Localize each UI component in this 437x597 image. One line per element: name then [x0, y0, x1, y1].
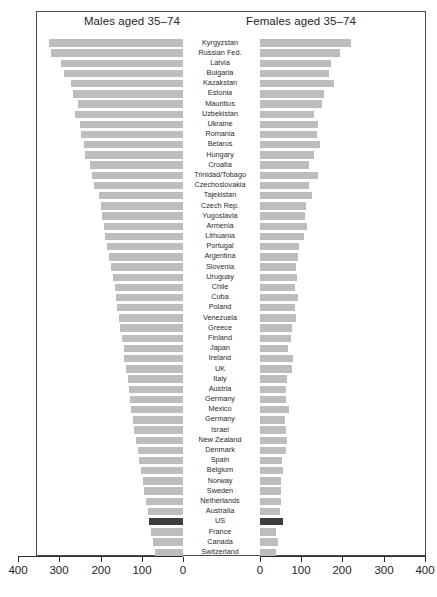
bar-female: [260, 202, 306, 209]
country-label: UK: [183, 364, 257, 374]
bar-female: [260, 172, 318, 179]
country-label: Denmark: [183, 445, 257, 455]
chart-row: Germany: [0, 395, 437, 405]
chart-row: Mexico: [0, 405, 437, 415]
bar-female: [260, 386, 286, 393]
chart-row: Canada: [0, 537, 437, 547]
bar-male: [113, 274, 183, 281]
bar-female: [260, 396, 286, 403]
bar-male: [130, 396, 183, 403]
country-label: Sweden: [183, 486, 257, 496]
chart-row: Kazakstan: [0, 79, 437, 89]
axis-tick-right: [342, 557, 343, 562]
axis-tick-label-left: 200: [81, 564, 121, 576]
bar-female: [260, 528, 276, 535]
bar-male: [78, 100, 183, 107]
country-label: Bulgaria: [183, 68, 257, 78]
country-label: Mexico: [183, 404, 257, 414]
bar-male: [124, 345, 183, 352]
bar-female: [260, 212, 305, 219]
chart-row: Trinidad/Tobago: [0, 170, 437, 180]
country-label: Japan: [183, 343, 257, 353]
chart-row: Romania: [0, 130, 437, 140]
chart-row: Chile: [0, 283, 437, 293]
bar-female: [260, 314, 296, 321]
axis-tick-right: [260, 557, 261, 562]
country-label: Australia: [183, 506, 257, 516]
bar-male: [75, 111, 183, 118]
bar-male: [90, 161, 183, 168]
country-label: Russian Fed.: [183, 48, 257, 58]
axis-tick-left: [101, 557, 102, 562]
chart-row: Netherlands: [0, 496, 437, 506]
country-label: Argentina: [183, 251, 257, 261]
country-label: Uzbekistan: [183, 109, 257, 119]
axis-tick-label-right: 200: [322, 564, 362, 576]
chart-row: Argentina: [0, 252, 437, 262]
bar-male: [122, 335, 183, 342]
bar-male: [128, 375, 183, 382]
bar-female: [260, 294, 298, 301]
bar-male: [71, 80, 183, 87]
bar-female: [260, 426, 286, 433]
country-label: Estonia: [183, 88, 257, 98]
country-label: New Zealand: [183, 435, 257, 445]
bar-male: [115, 284, 183, 291]
bar-male: [94, 182, 183, 189]
chart-row: Belgium: [0, 466, 437, 476]
bar-female: [260, 304, 295, 311]
chart-row: Finland: [0, 333, 437, 343]
panel-title-males: Males aged 35–74: [62, 15, 202, 27]
chart-row: Yugoslavia: [0, 211, 437, 221]
bar-female: [260, 121, 318, 128]
bar-female: [260, 284, 295, 291]
country-label: Chile: [183, 282, 257, 292]
bar-female: [260, 70, 329, 77]
bar-female: [260, 274, 297, 281]
bar-male: [73, 90, 183, 97]
bar-female: [260, 365, 292, 372]
chart-row: Poland: [0, 303, 437, 313]
bar-male: [120, 324, 183, 331]
bar-female: [260, 335, 291, 342]
country-label: Yugoslavia: [183, 211, 257, 221]
bar-female: [260, 477, 281, 484]
chart-row: Austria: [0, 384, 437, 394]
country-label: Romania: [183, 129, 257, 139]
chart-row: Czech Rep.: [0, 201, 437, 211]
country-label: Portugal: [183, 241, 257, 251]
bar-female: [260, 538, 278, 545]
chart-rows: KyrgyzstanRussian Fed.LatviaBulgariaKaza…: [0, 38, 437, 558]
country-label: Israel: [183, 425, 257, 435]
chart-row: Israel: [0, 425, 437, 435]
bar-male: [107, 243, 183, 250]
bar-male: [116, 294, 183, 301]
chart-row: Mauritius: [0, 99, 437, 109]
bar-female: [260, 141, 320, 148]
chart-row: Portugal: [0, 242, 437, 252]
bar-female: [260, 498, 281, 505]
bar-male: [81, 131, 183, 138]
bar-female: [260, 49, 340, 56]
country-label: Kazakstan: [183, 78, 257, 88]
bar-male: [49, 39, 183, 46]
bar-male: [64, 70, 183, 77]
country-label: Hungary: [183, 150, 257, 160]
chart-row: Armenia: [0, 221, 437, 231]
country-label: Spain: [183, 455, 257, 465]
chart-row: Slovenia: [0, 262, 437, 272]
panel-title-females: Females aged 35–74: [226, 15, 376, 27]
chart-row: Greece: [0, 323, 437, 333]
bar-male: [102, 212, 183, 219]
country-label: Latvia: [183, 58, 257, 68]
axis-tick-label-right: 100: [281, 564, 321, 576]
country-label: Belarus: [183, 139, 257, 149]
country-label: France: [183, 527, 257, 537]
axis-tick-label-right: 300: [364, 564, 404, 576]
axis-tick-left: [142, 557, 143, 562]
bar-male: [151, 528, 183, 535]
bar-female: [260, 508, 280, 515]
bar-female: [260, 60, 331, 67]
axis-tick-label-left: 0: [163, 564, 203, 576]
axis-tick-label-left: 300: [39, 564, 79, 576]
